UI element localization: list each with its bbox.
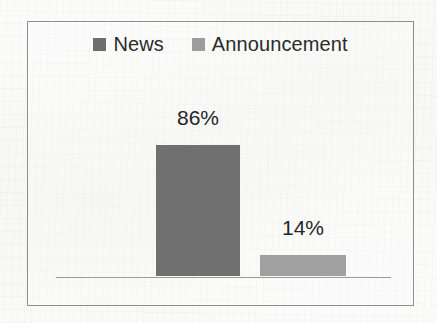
legend-label-news: News [113, 34, 163, 54]
bar-news[interactable] [156, 145, 240, 276]
bar-group-news: 86% [156, 86, 240, 276]
legend-label-announcement: Announcement [212, 34, 348, 54]
plot-area: 86% 14% [56, 86, 391, 276]
bar-value-news: 86% [177, 107, 219, 128]
legend-item-announcement[interactable]: Announcement [192, 34, 348, 54]
chart-legend: News Announcement [28, 34, 413, 54]
bar-value-announcement: 14% [282, 217, 324, 238]
legend-swatch-news-icon [93, 38, 106, 51]
category-axis-line [56, 277, 391, 278]
bar-announcement[interactable] [260, 255, 346, 276]
bar-group-announcement: 14% [260, 86, 346, 276]
chart-frame: News Announcement 86% 14% [27, 21, 414, 306]
legend-swatch-announcement-icon [192, 38, 205, 51]
legend-item-news[interactable]: News [93, 34, 163, 54]
